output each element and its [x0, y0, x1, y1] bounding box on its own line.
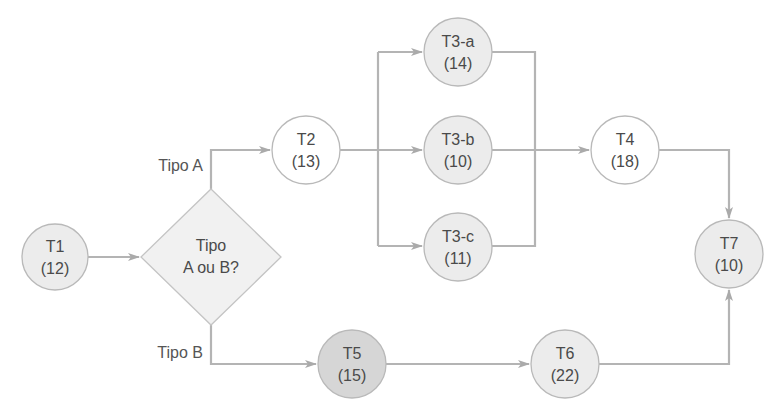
node-t3b-name: T3-b [442, 131, 475, 148]
node-t4-name: T4 [616, 131, 635, 148]
node-t1-duration: (12) [41, 260, 69, 277]
node-t6: T6 (22) [531, 330, 599, 398]
node-t3b-duration: (10) [444, 153, 472, 170]
node-t3c-duration: (11) [444, 250, 471, 267]
edge-t6-t7 [599, 290, 729, 364]
node-t3c-name: T3-c [442, 228, 474, 245]
edge-t4-t7 [659, 150, 729, 218]
node-t7: T7 (10) [695, 220, 763, 288]
node-t5: T5 (15) [318, 330, 386, 398]
node-t3b: T3-b (10) [424, 116, 492, 184]
node-t2: T2 (13) [272, 116, 340, 184]
decision-node: Tipo A ou B? [141, 189, 281, 325]
decision-line2: A ou B? [183, 259, 239, 276]
node-t4: T4 (18) [591, 116, 659, 184]
node-t2-duration: (13) [292, 153, 320, 170]
node-t6-name: T6 [556, 345, 575, 362]
node-t3a-name: T3-a [442, 33, 475, 50]
node-t3c: T3-c (11) [424, 213, 492, 281]
branch-label-tipo-a: Tipo A [158, 157, 203, 174]
decision-diamond-shape [141, 189, 281, 325]
edges [88, 52, 729, 364]
node-t1-name: T1 [46, 238, 65, 255]
node-t7-name: T7 [720, 235, 739, 252]
node-t6-duration: (22) [551, 367, 579, 384]
node-t1: T1 (12) [22, 224, 88, 290]
node-t4-duration: (18) [611, 153, 639, 170]
node-t7-duration: (10) [715, 257, 743, 274]
node-t5-duration: (15) [338, 367, 366, 384]
task-flow-diagram: Tipo A ou B? Tipo A Tipo B T1 (12) T2 (1… [0, 0, 776, 403]
edge-decision-t5 [211, 325, 316, 364]
node-t3a-duration: (14) [444, 55, 472, 72]
node-t5-name: T5 [343, 345, 362, 362]
node-t2-name: T2 [297, 131, 316, 148]
decision-line1: Tipo [196, 237, 227, 254]
branch-label-tipo-b: Tipo B [157, 344, 203, 361]
edge-decision-t2 [211, 150, 270, 189]
node-t3a: T3-a (14) [424, 18, 492, 86]
